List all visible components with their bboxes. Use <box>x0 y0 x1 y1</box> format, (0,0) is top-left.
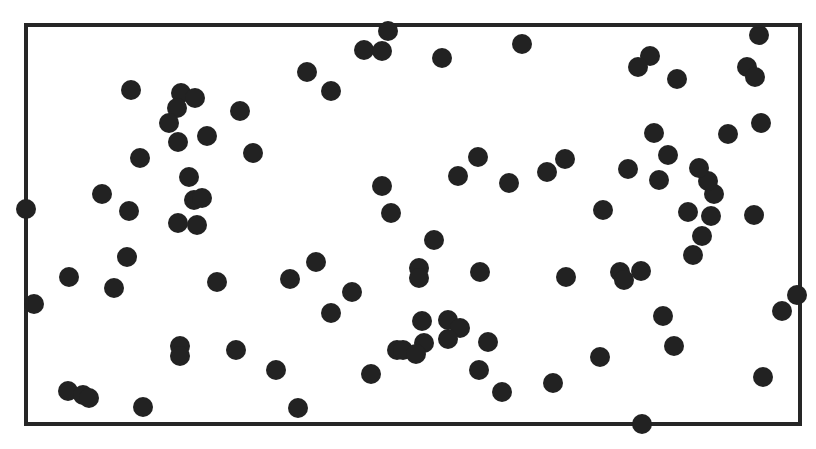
scatter-dot <box>701 206 721 226</box>
scatter-dot <box>187 215 207 235</box>
scatter-dot <box>753 367 773 387</box>
scatter-dot <box>469 360 489 380</box>
scatter-dot <box>470 262 490 282</box>
scatter-dot <box>354 40 374 60</box>
scatter-dot <box>412 311 432 331</box>
scatter-dot <box>751 113 771 133</box>
scatter-dot <box>207 272 227 292</box>
scatter-dot <box>79 388 99 408</box>
scatter-dot <box>226 340 246 360</box>
scatter-dot <box>381 203 401 223</box>
scatter-dot <box>689 158 709 178</box>
scatter-dot <box>644 123 664 143</box>
scatter-dot <box>512 34 532 54</box>
scatter-dot <box>432 48 452 68</box>
scatter-dot <box>297 62 317 82</box>
scatter-dot <box>628 57 648 77</box>
scatter-dot <box>745 67 765 87</box>
scatter-dot <box>667 69 687 89</box>
scatter-dot <box>104 278 124 298</box>
scatter-dot <box>159 113 179 133</box>
scatter-dot <box>749 25 769 45</box>
scatter-dot <box>718 124 738 144</box>
scatter-dot <box>478 332 498 352</box>
scatter-dot <box>133 397 153 417</box>
scatter-dot <box>372 176 392 196</box>
scatter-dot <box>92 184 112 204</box>
scatter-dot <box>618 159 638 179</box>
scatter-figure <box>0 0 816 449</box>
scatter-dot <box>168 213 188 233</box>
scatter-dot <box>632 414 652 434</box>
scatter-dot <box>537 162 557 182</box>
scatter-dot <box>321 303 341 323</box>
scatter-dot <box>664 336 684 356</box>
scatter-dot <box>631 261 651 281</box>
scatter-dot <box>692 226 712 246</box>
scatter-dot <box>179 167 199 187</box>
scatter-dot <box>168 132 188 152</box>
scatter-dot <box>424 230 444 250</box>
scatter-dot <box>683 245 703 265</box>
scatter-dot <box>772 301 792 321</box>
scatter-dot <box>185 88 205 108</box>
scatter-dot <box>653 306 673 326</box>
scatter-plot <box>0 0 816 449</box>
scatter-dot <box>649 170 669 190</box>
scatter-dot <box>378 21 398 41</box>
scatter-dot <box>556 267 576 287</box>
scatter-dot <box>448 166 468 186</box>
scatter-dot <box>406 344 426 364</box>
scatter-dot <box>787 285 807 305</box>
scatter-dot <box>590 347 610 367</box>
scatter-dot <box>555 149 575 169</box>
scatter-dot <box>119 201 139 221</box>
scatter-dot <box>266 360 286 380</box>
scatter-dot <box>744 205 764 225</box>
scatter-dot <box>342 282 362 302</box>
scatter-dot <box>170 346 190 366</box>
scatter-dot <box>593 200 613 220</box>
scatter-dot <box>614 270 634 290</box>
scatter-dot <box>117 247 137 267</box>
scatter-dot <box>306 252 326 272</box>
scatter-dot <box>321 81 341 101</box>
dots-layer <box>16 21 807 434</box>
scatter-dot <box>24 294 44 314</box>
scatter-dot <box>499 173 519 193</box>
scatter-dot <box>243 143 263 163</box>
scatter-dot <box>121 80 141 100</box>
scatter-dot <box>59 267 79 287</box>
scatter-dot <box>192 188 212 208</box>
scatter-dot <box>372 41 392 61</box>
scatter-dot <box>16 199 36 219</box>
scatter-dot <box>492 382 512 402</box>
scatter-dot <box>361 364 381 384</box>
scatter-dot <box>230 101 250 121</box>
scatter-dot <box>409 268 429 288</box>
scatter-dot <box>280 269 300 289</box>
scatter-dot <box>678 202 698 222</box>
scatter-dot <box>197 126 217 146</box>
scatter-dot <box>288 398 308 418</box>
scatter-dot <box>543 373 563 393</box>
scatter-dot <box>468 147 488 167</box>
scatter-dot <box>438 329 458 349</box>
scatter-dot <box>658 145 678 165</box>
scatter-dot <box>130 148 150 168</box>
